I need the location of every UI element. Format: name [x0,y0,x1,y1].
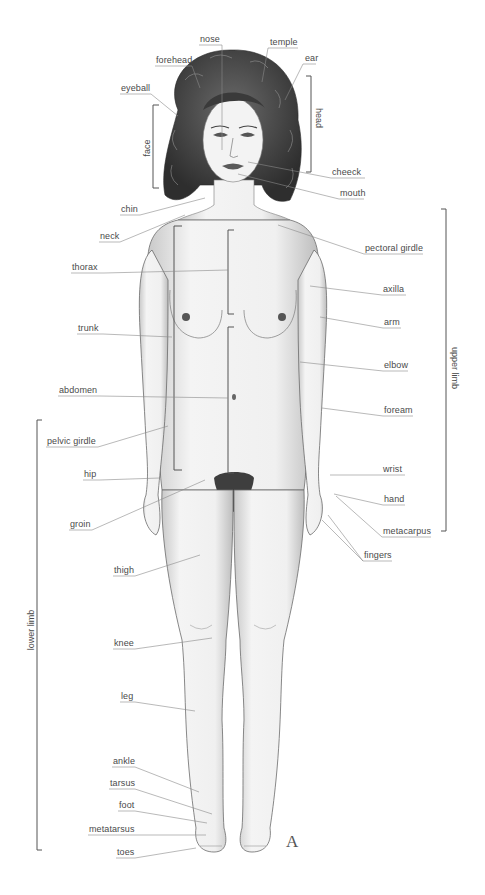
label-ankle: ankle [113,756,135,767]
right-leg [234,490,304,852]
label-ear: ear [305,53,318,64]
face-bracket [153,105,159,188]
label-fingers: fingers [364,550,392,561]
label-eyeball: eyeball [121,83,150,94]
label-chin: chin [121,204,138,215]
label-mouth: mouth [340,188,366,199]
bracket-label-upper-limb: upper limb [449,347,460,389]
label-arm: arm [384,317,400,328]
label-metacarpus: metacarpus [383,526,431,537]
label-nose: nose [200,34,220,45]
upper-limb-bracket [441,209,446,531]
bracket-label-face: face [142,139,153,156]
label-metatarsus: metatarsus [89,824,135,835]
label-elbow: elbow [384,360,408,371]
label-wrist: wrist [383,464,402,475]
plate-letter: A [286,832,298,852]
label-axilla: axilla [383,284,404,295]
head-bracket [306,76,311,172]
label-trunk: trunk [78,323,99,334]
label-thigh: thigh [114,565,134,576]
label-foot: foot [119,800,134,811]
label-pectoral-girdle: pectoral girdle [365,243,423,254]
lower-limb-bracket [37,420,42,850]
left-leg [162,490,233,852]
label-leg: leg [121,691,133,702]
label-pelvic-girdle: pelvic girdle [47,436,96,447]
label-abdomen: abdomen [59,385,97,396]
label-foream: foream [384,405,413,416]
label-temple: temple [270,37,298,48]
label-tarsus: tarsus [110,778,135,789]
label-hand: hand [384,494,404,505]
anatomy-diagram: nose temple forehead ear eyeball cheeck … [0,0,485,895]
label-thorax: thorax [72,262,98,273]
label-forehead: forehead [156,55,192,66]
label-knee: knee [114,638,134,649]
bracket-label-head: head [313,108,324,128]
body-illustration [0,0,485,895]
label-toes: toes [117,847,134,858]
label-groin: groin [70,519,91,530]
label-hip: hip [84,469,96,480]
label-neck: neck [100,231,119,242]
bracket-label-lower-limb: lower limb [26,610,37,651]
label-cheeck: cheeck [332,167,361,178]
